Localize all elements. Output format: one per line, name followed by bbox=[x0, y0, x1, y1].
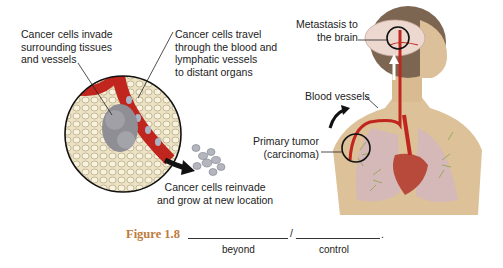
label-blood-vessels: Blood vessels bbox=[305, 90, 370, 103]
cell-cluster-icon bbox=[192, 145, 225, 176]
blank-2[interactable] bbox=[296, 238, 380, 239]
tissue-magnified-icon bbox=[65, 70, 181, 192]
figure-caption: Figure 1.8 bbox=[126, 227, 180, 242]
label-metastasis: Metastasis to the brain bbox=[296, 18, 358, 43]
blank-1[interactable] bbox=[188, 238, 288, 239]
label-invade: Cancer cells invade surrounding tissues … bbox=[21, 28, 113, 66]
label-reinvade: Cancer cells reinvade and grow at new lo… bbox=[157, 181, 273, 206]
hint-control: control bbox=[319, 244, 349, 255]
figure-diagram: Cancer cells invade surrounding tissues … bbox=[0, 0, 503, 268]
period: . bbox=[381, 228, 384, 241]
label-primary-tumor: Primary tumor (carcinoma) bbox=[253, 135, 319, 160]
label-travel: Cancer cells travel through the blood an… bbox=[175, 28, 277, 78]
slash: / bbox=[290, 227, 293, 240]
hint-beyond: beyond bbox=[222, 244, 255, 255]
